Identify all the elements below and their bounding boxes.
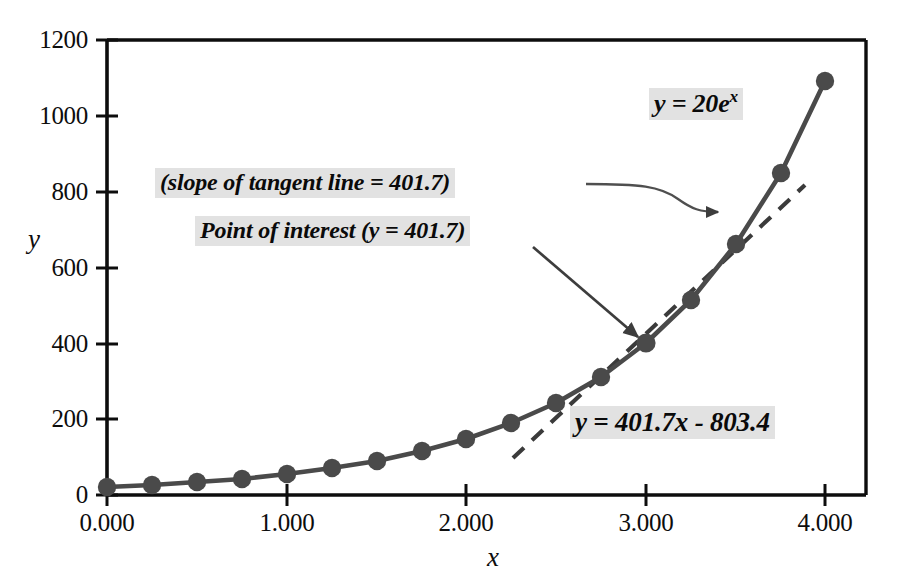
data-point (278, 465, 296, 483)
data-point (727, 235, 745, 253)
x-tick-label-0: 0.000 (80, 509, 135, 537)
data-point (772, 164, 790, 182)
data-point (233, 470, 251, 488)
y-tick-label-1200: 1200 (12, 26, 88, 54)
data-point (368, 452, 386, 470)
data-point (413, 442, 431, 460)
curve-equation-exponent: x (730, 87, 738, 106)
y-tick-label-0: 0 (12, 481, 88, 509)
y-tick-label-200: 200 (12, 405, 88, 433)
data-point (98, 478, 116, 496)
data-point (682, 291, 700, 309)
tangent-line-equation-label: y = 401.7x - 803.4 (570, 406, 775, 439)
y-axis-title: y (28, 224, 40, 255)
plot-canvas (0, 0, 899, 581)
slope-note-leader-line (586, 184, 718, 212)
y-tick-label-600: 600 (12, 254, 88, 282)
data-point (547, 394, 565, 412)
data-point (816, 72, 834, 90)
y-tick-label-1000: 1000 (12, 102, 88, 130)
x-tick-label-4: 4.000 (798, 509, 853, 537)
y-tick-label-800: 800 (12, 178, 88, 206)
data-point (188, 473, 206, 491)
curve-equation-text: y = 20e (654, 89, 730, 118)
data-point (143, 476, 161, 494)
data-point (323, 459, 341, 477)
data-point (502, 414, 520, 432)
y-tick-label-400: 400 (12, 330, 88, 358)
data-point (592, 368, 610, 386)
point-of-interest-note: Point of interest (y = 401.7) (195, 216, 470, 246)
x-axis-title: x (487, 542, 499, 573)
tangent-slope-note: (slope of tangent line = 401.7) (155, 168, 455, 198)
x-tick-label-2: 2.000 (439, 509, 494, 537)
data-point-of-interest (636, 333, 655, 352)
chart-figure: 1200 1000 800 600 400 200 0 0.000 1.000 … (0, 0, 899, 581)
point-note-arrow (533, 247, 638, 337)
curve-equation-label: y = 20ex (649, 88, 743, 120)
x-tick-label-3: 3.000 (619, 509, 674, 537)
x-tick-label-1: 1.000 (260, 509, 315, 537)
data-point (457, 430, 475, 448)
